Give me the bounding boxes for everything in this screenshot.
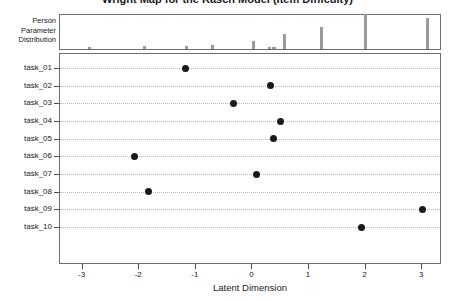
data-point (253, 171, 260, 178)
grid-line (60, 192, 440, 193)
grid-line (60, 86, 440, 87)
item-difficulty-panel (59, 53, 441, 264)
person-histogram (60, 15, 440, 49)
y-axis-tick-label: task_10 (0, 223, 52, 231)
x-axis: Latent Dimension -3-2-10123 (59, 264, 441, 301)
person-label-line-1: Person (2, 16, 56, 26)
scatter-plot-area (60, 54, 440, 263)
wright-map-figure: Wright Map for the Rasch Model (Item Dif… (0, 0, 455, 301)
x-axis-tick-label: -2 (135, 270, 142, 279)
data-point (131, 153, 138, 160)
y-axis-tick (54, 156, 59, 157)
person-label-line-2: Parameter (2, 26, 56, 36)
y-axis: task_01task_02task_03task_04task_05task_… (0, 53, 59, 264)
data-point (145, 188, 152, 195)
person-label-line-3: Distribution (2, 35, 56, 45)
data-point (358, 224, 365, 231)
y-axis-tick (54, 227, 59, 228)
y-axis-tick-label: task_06 (0, 152, 52, 160)
x-axis-tick-label: -1 (191, 270, 198, 279)
grid-line (60, 139, 440, 140)
y-axis-tick-label: task_03 (0, 99, 52, 107)
grid-line (60, 103, 440, 104)
x-axis-tick (308, 264, 309, 269)
histogram-bar (426, 18, 429, 50)
data-point (230, 100, 237, 107)
x-axis-tick-label: 0 (249, 270, 253, 279)
histogram-bar (364, 14, 367, 49)
grid-line (60, 121, 440, 122)
y-axis-tick-label: task_01 (0, 64, 52, 72)
x-axis-title: Latent Dimension (59, 282, 441, 293)
y-axis-tick (54, 86, 59, 87)
grid-line (60, 68, 440, 69)
histogram-bar (252, 41, 255, 49)
grid-line (60, 227, 440, 228)
y-axis-tick (54, 192, 59, 193)
person-parameter-distribution-label: Person Parameter Distribution (2, 16, 56, 45)
y-axis-tick-label: task_09 (0, 205, 52, 213)
y-axis-tick-label: task_04 (0, 117, 52, 125)
chart-title: Wright Map for the Rasch Model (Item Dif… (0, 0, 455, 5)
x-axis-tick (421, 264, 422, 269)
y-axis-tick (54, 68, 59, 69)
x-axis-tick-label: 2 (362, 270, 366, 279)
y-axis-tick-label: task_02 (0, 82, 52, 90)
data-point (277, 118, 284, 125)
grid-line (60, 174, 440, 175)
x-axis-tick (251, 264, 252, 269)
y-axis-tick-label: task_08 (0, 188, 52, 196)
x-axis-tick-label: 3 (419, 270, 423, 279)
data-point (182, 65, 189, 72)
histogram-bar (143, 46, 146, 49)
data-point (419, 206, 426, 213)
histogram-bar (272, 47, 275, 49)
x-axis-tick (138, 264, 139, 269)
grid-line (60, 156, 440, 157)
x-axis-tick (195, 264, 196, 269)
y-axis-tick-label: task_07 (0, 170, 52, 178)
histogram-bar (283, 34, 286, 49)
x-axis-tick (365, 264, 366, 269)
histogram-bar (88, 47, 91, 49)
x-axis-tick-label: -3 (78, 270, 85, 279)
y-axis-tick (54, 139, 59, 140)
histogram-bar (320, 27, 323, 49)
histogram-bar (268, 47, 271, 49)
grid-line (60, 209, 440, 210)
x-axis-tick-label: 1 (306, 270, 310, 279)
y-axis-tick (54, 174, 59, 175)
y-axis-tick (54, 121, 59, 122)
x-axis-tick (82, 264, 83, 269)
y-axis-tick-label: task_05 (0, 135, 52, 143)
data-point (270, 135, 277, 142)
person-parameter-distribution-panel (59, 14, 441, 50)
y-axis-tick (54, 103, 59, 104)
y-axis-tick (54, 209, 59, 210)
histogram-bar (211, 45, 214, 49)
data-point (267, 82, 274, 89)
histogram-bar (185, 46, 188, 49)
